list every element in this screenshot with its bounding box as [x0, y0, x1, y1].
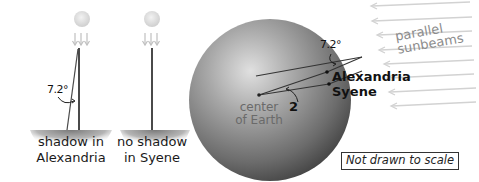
syene-ground-label: no shadow in Syene	[107, 134, 197, 166]
alexandria-ground-line2: Alexandria	[26, 150, 116, 166]
alexandria-label: Alexandria	[332, 70, 411, 83]
down-arrows-icon	[73, 33, 90, 45]
earth-angle-top-label: 7.2°	[320, 39, 341, 50]
syene-panel	[120, 11, 190, 150]
alexandria-ground-label: shadow in Alexandria	[26, 134, 116, 166]
syene-label: Syene	[332, 85, 377, 98]
down-arrows-icon	[143, 33, 160, 45]
not-to-scale-note: Not drawn to scale	[341, 152, 459, 170]
sun-icon	[144, 11, 160, 27]
alexandria-panel	[30, 11, 112, 150]
center-point	[257, 93, 261, 97]
syene-ground-line2: in Syene	[107, 150, 197, 166]
syene-point	[327, 82, 331, 86]
alexandria-angle-label: 7.2°	[47, 84, 68, 95]
shadow-ray	[67, 49, 78, 130]
center-label-line2: of Earth	[219, 114, 299, 127]
center-of-earth-label: center of Earth	[219, 101, 299, 127]
sun-icon	[74, 11, 90, 27]
alexandria-ground-line1: shadow in	[26, 134, 116, 150]
parallel-sunbeams	[371, 2, 476, 109]
alexandria-point	[325, 70, 329, 74]
syene-ground-line1: no shadow	[107, 134, 197, 150]
